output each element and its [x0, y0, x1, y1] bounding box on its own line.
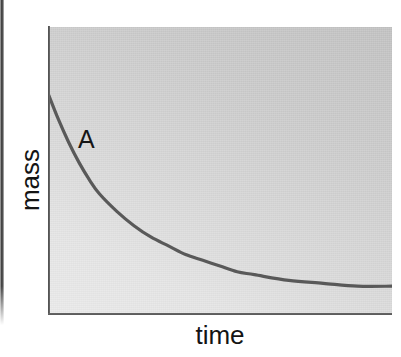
figure-page: A mass time — [0, 0, 401, 357]
y-axis-title-container: mass — [10, 125, 50, 235]
y-axis-title: mass — [15, 125, 45, 235]
decay-curve-svg — [48, 27, 392, 315]
page-edge-fade — [0, 286, 5, 357]
curve-label-a: A — [78, 127, 95, 152]
x-axis-line — [48, 313, 392, 315]
x-axis-title: time — [48, 320, 392, 350]
decay-curve-path — [48, 93, 392, 286]
plot-area: A — [48, 27, 392, 315]
